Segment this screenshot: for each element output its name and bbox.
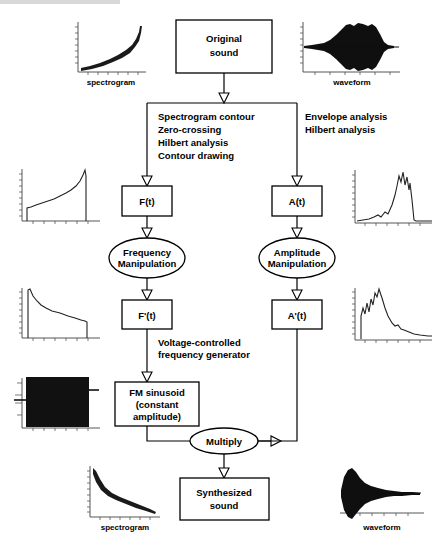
plot-fm-dark-block	[26, 377, 89, 427]
annot-right-1: Envelope analysis	[305, 111, 387, 122]
node-frequency-manipulation-line1: Frequency	[123, 247, 172, 258]
node-f-of-t[interactable]: F(t)	[122, 186, 172, 216]
diagram-canvas: Original sound Spectrogram contour Zero-…	[0, 0, 445, 545]
node-original-sound-line2: sound	[210, 47, 239, 58]
node-frequency-manipulation[interactable]: Frequency Manipulation	[109, 238, 185, 278]
plot-fm-yticks	[15, 383, 22, 415]
flow-diagram: Original sound Spectrogram contour Zero-…	[0, 0, 445, 545]
plot-rap-trace	[361, 289, 432, 339]
plot-left-f-of-t	[19, 169, 100, 224]
node-f-of-t-label: F(t)	[139, 196, 154, 207]
plot-bottom-right-waveform: waveform	[340, 468, 424, 532]
node-synthesized-sound[interactable]: Synthesized sound	[180, 478, 269, 520]
arrowhead-freqmanip-to-fprime	[142, 290, 152, 300]
node-original-sound[interactable]: Original sound	[176, 20, 272, 73]
plot-ra-trace	[357, 172, 432, 221]
plot-lf-trace	[27, 170, 86, 221]
annot-left-2: Zero-crossing	[158, 124, 222, 135]
node-synthesized-sound-line1: Synthesized	[196, 487, 252, 498]
node-fm-sinusoid-line2: (constant	[136, 399, 180, 410]
node-f-prime-of-t[interactable]: F'(t)	[122, 300, 172, 329]
plot-right-a-prime-of-t	[352, 288, 432, 343]
edge-aprime-to-multiply	[244, 329, 297, 441]
arrowhead-ampmanip-to-aprime	[292, 290, 302, 300]
annotation-right-branch: Envelope analysis Hilbert analysis	[305, 111, 387, 135]
node-fm-sinusoid-line3: amplitude)	[133, 411, 181, 422]
node-a-prime-of-t-label: A'(t)	[288, 310, 307, 321]
plot-br-caption: waveform	[362, 523, 400, 532]
plot-tl-band	[81, 26, 142, 71]
node-fm-sinusoid-line1: FM sinusoid	[129, 387, 185, 398]
plot-rap-xticks	[365, 340, 420, 343]
node-synthesized-sound-box	[180, 478, 269, 520]
arrowhead-original-to-split	[219, 93, 229, 103]
node-original-sound-line1: Original	[206, 33, 242, 44]
node-a-of-t-label: A(t)	[289, 196, 305, 207]
node-amplitude-manipulation-line2: Manipulation	[268, 258, 327, 269]
plot-lfp-trace	[28, 289, 87, 338]
plot-bl-caption: spectrogram	[101, 523, 149, 532]
arrowhead-split-to-at	[292, 176, 302, 186]
node-synthesized-sound-line2: sound	[210, 500, 239, 511]
node-amplitude-manipulation[interactable]: Amplitude Manipulation	[259, 238, 335, 278]
node-multiply-label: Multiply	[206, 436, 243, 447]
annot-right-2: Hilbert analysis	[305, 124, 375, 135]
arrowhead-fprime-to-fm	[142, 372, 152, 382]
node-multiply[interactable]: Multiply	[190, 428, 258, 454]
node-a-prime-of-t[interactable]: A'(t)	[272, 300, 322, 329]
node-a-of-t[interactable]: A(t)	[272, 186, 322, 216]
annotation-left-branch: Spectrogram contour Zero-crossing Hilber…	[158, 111, 255, 161]
plot-bottom-left-spectrogram: spectrogram	[87, 466, 160, 532]
arrowhead-ft-to-freqmanip	[142, 228, 152, 238]
annotation-mid-left: Voltage-controlled frequency generator	[158, 337, 250, 360]
plot-fm-sinusoid-spectrogram	[14, 377, 100, 431]
plot-bl-band	[93, 468, 156, 514]
annot-mid-1: Voltage-controlled	[158, 337, 241, 348]
plot-top-right-waveform: waveform	[300, 22, 400, 87]
plot-top-left-spectrogram: spectrogram	[75, 22, 146, 87]
annot-mid-2: frequency generator	[158, 349, 250, 360]
node-frequency-manipulation-line2: Manipulation	[118, 258, 177, 269]
annot-left-4: Contour drawing	[158, 150, 234, 161]
plot-left-f-prime-of-t	[19, 288, 100, 341]
plot-tr-caption: waveform	[332, 78, 370, 87]
annot-left-1: Spectrogram contour	[158, 111, 255, 122]
plot-fm-xticks	[33, 428, 88, 431]
node-fm-sinusoid[interactable]: FM sinusoid (constant amplitude)	[115, 382, 199, 426]
node-amplitude-manipulation-line1: Amplitude	[274, 247, 320, 258]
arrowhead-split-to-ft	[142, 176, 152, 186]
annot-left-3: Hilbert analysis	[158, 137, 228, 148]
arrowhead-multiply-to-synth	[219, 468, 229, 478]
arrowhead-at-to-ampmanip	[292, 228, 302, 238]
plot-lfp-xticks	[33, 338, 88, 341]
plot-right-a-of-t	[352, 170, 432, 226]
plot-tl-caption: spectrogram	[87, 78, 135, 87]
node-f-prime-of-t-label: F'(t)	[138, 310, 156, 321]
